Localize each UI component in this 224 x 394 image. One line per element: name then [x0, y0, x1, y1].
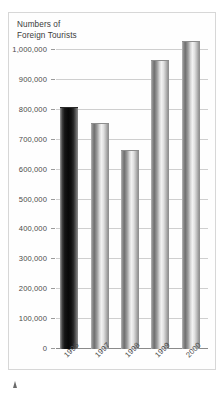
bar-body [182, 41, 200, 349]
y-axis-tick-label: 400,000 [19, 224, 47, 233]
bar-body [121, 150, 139, 349]
y-tick-mark [51, 199, 55, 200]
chart-title-line-1: Numbers of [17, 20, 137, 31]
chart-figure: Numbers of Foreign Tourists 0100,000200,… [0, 0, 224, 394]
y-axis-tick-label: 100,000 [19, 314, 47, 323]
y-axis-tick-label: 500,000 [19, 194, 47, 203]
y-tick-mark [51, 109, 55, 110]
y-tick-mark [51, 258, 55, 259]
bar-1999 [151, 60, 169, 349]
y-axis-tick-label: 700,000 [19, 134, 47, 143]
y-axis-tick-label: 200,000 [19, 284, 47, 293]
y-tick-mark [51, 318, 55, 319]
y-tick-mark [51, 348, 55, 349]
bar-body [60, 107, 78, 349]
bar-body [91, 123, 109, 349]
y-axis-tick-label: 0 [43, 344, 47, 353]
y-axis-tick-label: 800,000 [19, 104, 47, 113]
y-axis-tick-label: 600,000 [19, 164, 47, 173]
y-tick-mark [51, 288, 55, 289]
y-axis-tick-label: 300,000 [19, 254, 47, 263]
bar-2000 [182, 41, 200, 349]
y-tick-mark [51, 228, 55, 229]
bar-body [151, 60, 169, 349]
bar-1997 [91, 123, 109, 349]
y-axis-tick-label: 900,000 [19, 74, 47, 83]
bar-1996 [60, 107, 78, 349]
caret-marker-icon [13, 381, 17, 388]
y-tick-mark [51, 79, 55, 80]
y-tick-mark [51, 139, 55, 140]
plot-area: 0100,000200,000300,000400,000500,000600,… [56, 40, 208, 349]
x-axis-labels: 19961997199819992000 [56, 349, 208, 389]
y-tick-mark [51, 169, 55, 170]
y-axis-tick-label: 1,000,000 [12, 45, 47, 54]
bars-layer [56, 40, 208, 349]
bar-1998 [121, 150, 139, 349]
y-tick-mark [51, 49, 55, 50]
chart-title: Numbers of Foreign Tourists [17, 20, 137, 41]
